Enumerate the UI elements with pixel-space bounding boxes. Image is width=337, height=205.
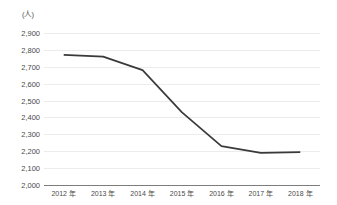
- series-svg: [44, 33, 320, 185]
- x-axis-tick-label: 2012 年: [51, 188, 76, 198]
- line-chart: (人) 2,9002,8002,7002,6002,5002,4002,3002…: [0, 0, 337, 205]
- x-axis-tick-label: 2017 年: [249, 188, 274, 198]
- y-axis-tick-label: 2,800: [21, 45, 40, 54]
- y-axis-tick-label: 2,300: [21, 130, 40, 139]
- y-axis-tick-label: 2,500: [21, 96, 40, 105]
- y-axis-tick-label: 2,600: [21, 79, 40, 88]
- series-line: [64, 55, 301, 153]
- x-axis-tick-labels: 2012 年2013 年2014 年2015 年2016 年2017 年2018…: [44, 188, 320, 202]
- y-axis-tick-label: 2,100: [21, 164, 40, 173]
- y-axis-tick-label: 2,200: [21, 147, 40, 156]
- x-axis-tick-label: 2013 年: [91, 188, 116, 198]
- x-axis-tick-label: 2016 年: [209, 188, 234, 198]
- y-axis-tick-label: 2,000: [21, 181, 40, 190]
- y-axis-tick-label: 2,700: [21, 62, 40, 71]
- gridline: [44, 185, 320, 186]
- x-axis-tick-label: 2018 年: [288, 188, 313, 198]
- x-axis-tick-label: 2015 年: [170, 188, 195, 198]
- y-axis-unit-label: (人): [22, 8, 34, 19]
- y-axis-tick-labels: 2,9002,8002,7002,6002,5002,4002,3002,200…: [0, 33, 40, 185]
- y-axis-tick-label: 2,400: [21, 113, 40, 122]
- y-axis-tick-label: 2,900: [21, 29, 40, 38]
- x-axis-tick-label: 2014 年: [130, 188, 155, 198]
- plot-area: [44, 33, 320, 185]
